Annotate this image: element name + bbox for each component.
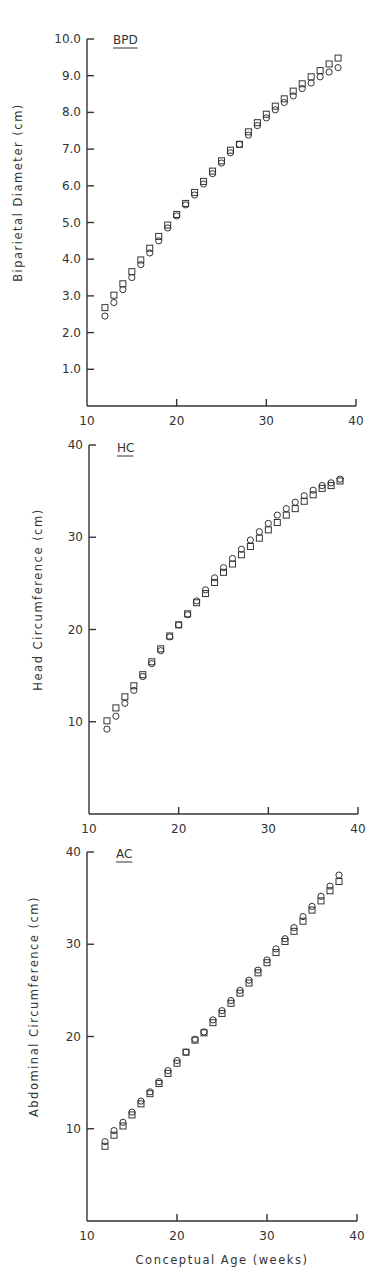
bpd-square-marker: [317, 68, 323, 74]
bpd-y-tick-label: 4.0: [62, 252, 81, 266]
bpd-y-tick-label: 1.0: [62, 362, 81, 376]
hc-circle-marker: [176, 622, 182, 628]
hc-square-marker: [292, 506, 298, 512]
hc-x-tick-label: 20: [171, 822, 186, 836]
hc-y-tick-label: 30: [68, 530, 83, 544]
ac-y-tick-label: 40: [66, 845, 81, 859]
hc-square-marker: [256, 535, 262, 541]
hc-circle-marker: [158, 648, 164, 654]
ac-circle-marker: [183, 1049, 189, 1055]
ac-y-tick-label: 10: [66, 1122, 81, 1136]
bpd-square-marker: [129, 269, 135, 275]
bpd-x-tick-label: 10: [79, 414, 94, 428]
hc-circle-marker: [122, 700, 128, 706]
bpd-circle-marker: [120, 287, 126, 293]
hc-square-marker: [104, 718, 110, 724]
hc-circle-marker: [194, 598, 200, 604]
hc-x-tick-label: 40: [350, 822, 365, 836]
hc-square-marker: [283, 512, 289, 518]
ac-circle-marker: [327, 883, 333, 889]
bpd-square-marker: [308, 74, 314, 80]
bpd-x-tick-label: 40: [348, 414, 363, 428]
ac-y-tick-label: 20: [66, 1030, 81, 1044]
bpd-circle-marker: [335, 65, 341, 71]
hc-circle-marker: [256, 529, 262, 535]
bpd-x-tick-label: 20: [169, 414, 184, 428]
bpd-square-marker: [335, 55, 341, 61]
bpd-y-tick-label: 9.0: [62, 69, 81, 83]
ac-circle-marker: [291, 925, 297, 931]
hc-circle-marker: [131, 687, 137, 693]
bpd-y-axis-label: Biparietal Diameter (cm): [11, 103, 25, 282]
ac-circle-marker: [120, 1119, 126, 1125]
hc-circle-marker: [337, 476, 343, 482]
hc-panel-label: HC: [117, 441, 134, 455]
bpd-circle-marker: [308, 80, 314, 86]
ac-y-axis-label: Abdominal Circumference (cm): [27, 896, 41, 1117]
hc-y-tick-label: 20: [68, 623, 83, 637]
bpd-square-marker: [326, 61, 332, 67]
ac-circle-marker: [147, 1089, 153, 1095]
ac-x-tick-label: 40: [349, 1229, 364, 1243]
bpd-square-marker: [120, 281, 126, 287]
x-axis-label: Conceptual Age (weeks): [136, 1253, 309, 1267]
bpd-square-marker: [102, 305, 108, 311]
chart-svg: 1.02.03.04.05.06.07.08.09.010.010203040B…: [0, 0, 389, 1286]
bpd-circle-marker: [102, 313, 108, 319]
hc-circle-marker: [113, 713, 119, 719]
ac-circle-marker: [111, 1127, 117, 1133]
bpd-circle-marker: [326, 69, 332, 75]
hc-square-marker: [247, 543, 253, 549]
ac-circle-marker: [300, 913, 306, 919]
bpd-y-tick-label: 8.0: [62, 105, 81, 119]
hc-circle-marker: [283, 506, 289, 512]
bpd-circle-marker: [272, 107, 278, 113]
ac-square-marker: [336, 879, 342, 885]
ac-circle-marker: [336, 872, 342, 878]
bpd-y-tick-label: 7.0: [62, 142, 81, 156]
hc-y-tick-label: 10: [68, 715, 83, 729]
bpd-circle-marker: [281, 99, 287, 105]
hc-circle-marker: [220, 565, 226, 571]
bpd-y-tick-label: 3.0: [62, 289, 81, 303]
bpd-circle-marker: [111, 299, 117, 305]
figure: 1.02.03.04.05.06.07.08.09.010.010203040B…: [0, 0, 389, 1286]
bpd-x-tick-label: 30: [259, 414, 274, 428]
hc-y-axis-label: Head Circumference (cm): [31, 508, 45, 690]
hc-circle-marker: [310, 487, 316, 493]
ac-circle-marker: [309, 903, 315, 909]
hc-square-marker: [113, 705, 119, 711]
ac-circle-marker: [318, 893, 324, 899]
bpd-square-marker: [111, 292, 117, 298]
ac-circle-marker: [102, 1139, 108, 1145]
bpd-circle-marker: [129, 274, 135, 280]
hc-circle-marker: [149, 661, 155, 667]
bpd-y-tick-label: 5.0: [62, 216, 81, 230]
bpd-circle-marker: [183, 202, 189, 208]
hc-y-tick-label: 40: [68, 438, 83, 452]
ac-circle-marker: [273, 946, 279, 952]
ac-x-tick-label: 10: [79, 1229, 94, 1243]
hc-circle-marker: [274, 512, 280, 518]
hc-square-marker: [122, 694, 128, 700]
bpd-circle-marker: [263, 115, 269, 121]
bpd-circle-marker: [236, 141, 242, 147]
bpd-circle-marker: [174, 213, 180, 219]
ac-x-tick-label: 30: [259, 1229, 274, 1243]
hc-x-tick-label: 30: [261, 822, 276, 836]
hc-circle-marker: [292, 499, 298, 505]
hc-circle-marker: [140, 673, 146, 679]
bpd-y-tick-label: 6.0: [62, 179, 81, 193]
hc-square-marker: [265, 527, 271, 533]
bpd-y-tick-label: 10.0: [54, 32, 81, 46]
hc-circle-marker: [202, 587, 208, 593]
ac-panel-label: AC: [116, 847, 132, 861]
ac-y-tick-label: 30: [66, 937, 81, 951]
bpd-y-tick-label: 2.0: [62, 326, 81, 340]
hc-circle-marker: [265, 520, 271, 526]
bpd-panel-label: BPD: [113, 33, 138, 47]
ac-x-tick-label: 20: [169, 1229, 184, 1243]
hc-circle-marker: [211, 575, 217, 581]
bpd-circle-marker: [156, 238, 162, 244]
ac-circle-marker: [156, 1079, 162, 1085]
